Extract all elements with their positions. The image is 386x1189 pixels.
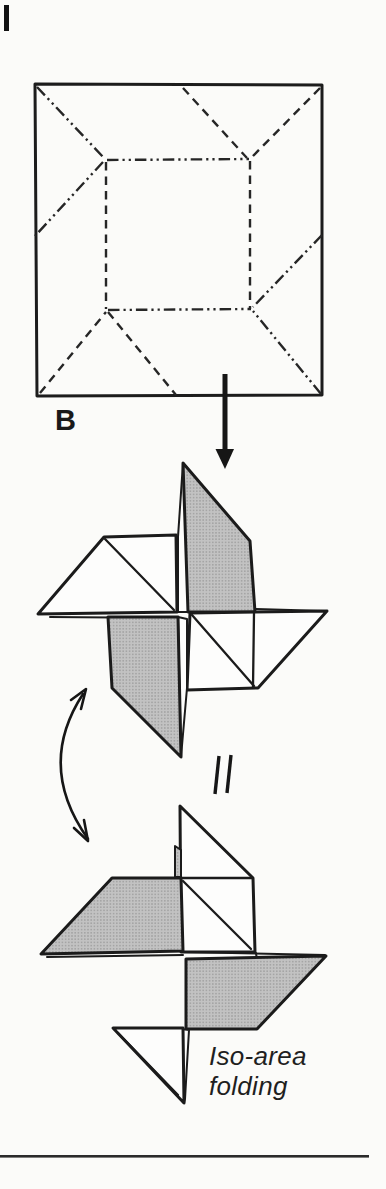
crease-line xyxy=(108,312,176,395)
fold-direction-arrow-icon xyxy=(216,374,235,469)
footer-rule xyxy=(0,1155,369,1158)
crease-pattern xyxy=(35,84,322,396)
step-label: B xyxy=(55,404,76,437)
paper-edge-sliver-shaded xyxy=(175,846,181,877)
caption-line-1: Iso-area xyxy=(209,1041,307,1071)
flap-left-white xyxy=(38,535,177,614)
crease-line xyxy=(35,162,103,236)
crease-line xyxy=(108,309,251,310)
crease-line xyxy=(40,312,106,393)
page-edge-mark xyxy=(4,5,9,31)
crease-line xyxy=(253,311,321,394)
crease-line xyxy=(253,235,322,307)
flap-top-shaded xyxy=(183,463,255,612)
crease-line xyxy=(107,159,249,160)
scanned-book-figure: B Iso-area folding xyxy=(0,0,386,1189)
pinwheel-front xyxy=(38,463,327,757)
crease-line xyxy=(37,87,105,159)
flap-bottom-shaded xyxy=(108,617,181,757)
caption-line-2: folding xyxy=(209,1071,307,1101)
caption-iso-area-folding: Iso-area folding xyxy=(209,1041,307,1101)
diagram-canvas xyxy=(0,0,386,1189)
fold-line xyxy=(253,613,254,687)
flap-right-shaded xyxy=(186,956,326,1029)
flip-rotation-arrow-icon xyxy=(61,689,88,841)
crease-line xyxy=(251,88,320,158)
crease-line xyxy=(183,88,247,158)
equivalence-bars-icon xyxy=(215,755,231,794)
flap-left-shaded xyxy=(41,878,183,954)
paper-edge-line xyxy=(47,955,183,957)
flap-right-white xyxy=(187,611,327,690)
